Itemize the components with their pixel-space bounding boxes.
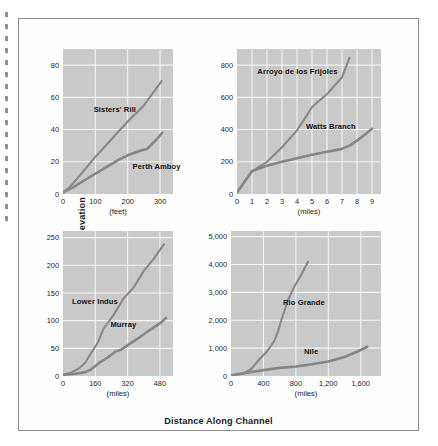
plot-area: Lower IndusMurray [63,231,173,376]
plot-area: Rio GrandeNile [231,231,381,376]
series-annotation-label: Lower Indus [72,297,118,306]
plot-area: Sisters' RillPerth Amboy [63,49,173,194]
figure-x-axis-label: Distance Along Channel [19,416,418,426]
x-axis-unit-label: (miles) [231,389,381,398]
y-tick-label: 20 [25,157,59,166]
series-line [63,244,164,375]
x-tick-label: 100 [78,197,112,206]
chart-panel-top-left: Sisters' RillPerth Amboy0204060800100200… [63,49,173,194]
x-tick-label: 1,200 [311,379,345,388]
y-tick-label: 200 [25,261,59,270]
x-tick-label: 0 [46,379,80,388]
scan-edge-artifact [5,12,8,227]
x-axis-unit-label: (feet) [63,207,173,216]
y-tick-label: 200 [199,157,233,166]
x-tick-label: 0 [46,197,80,206]
plot-area: Arroyo de los FrijolesWatts Branch [237,49,381,194]
y-tick-label: 100 [25,316,59,325]
y-tick-label: 5,000 [193,232,227,241]
x-axis-unit-label: (miles) [237,207,381,216]
series-line [63,81,162,192]
y-tick-label: 40 [25,125,59,134]
series-annotation-label: Nile [304,347,318,356]
x-tick-label: 160 [78,379,112,388]
chart-panel-top-right: Arroyo de los FrijolesWatts Branch020040… [237,49,381,194]
y-tick-label: 4,000 [193,260,227,269]
x-tick-label: 320 [111,379,145,388]
x-tick-label: 0 [214,379,248,388]
y-tick-label: 60 [25,93,59,102]
y-tick-label: 400 [199,125,233,134]
series-annotation-label: Murray [110,320,136,329]
y-tick-label: 80 [25,61,59,70]
x-tick-label: 1,600 [344,379,378,388]
y-tick-label: 3,000 [193,288,227,297]
series-line [231,347,367,376]
y-tick-label: 250 [25,233,59,242]
series-line [237,129,372,193]
y-tick-label: 600 [199,93,233,102]
series-line [231,262,308,376]
series-annotation-label: Rio Grande [283,298,325,307]
plot-canvas [63,49,173,194]
x-axis-unit-label: (miles) [63,389,173,398]
figure-frame: Elevation Above Mouth (feet) Distance Al… [18,18,419,431]
series-annotation-label: Watts Branch [306,122,356,131]
x-tick-label: 400 [246,379,280,388]
y-tick-label: 150 [25,289,59,298]
x-tick-label: 800 [279,379,313,388]
y-tick-label: 50 [25,344,59,353]
series-annotation-label: Perth Amboy [133,162,181,171]
series-annotation-label: Sisters' Rill [94,105,136,114]
chart-panel-bottom-right: Rio GrandeNile01,0002,0003,0004,0005,000… [231,231,381,376]
figure-body: Elevation Above Mouth (feet) Distance Al… [19,19,418,430]
series-annotation-label: Arroyo de los Frijoles [257,67,337,76]
y-tick-label: 2,000 [193,316,227,325]
x-tick-label: 480 [143,379,177,388]
x-tick-label: 9 [355,197,389,206]
y-tick-label: 1,000 [193,344,227,353]
y-tick-label: 800 [199,61,233,70]
chart-panel-bottom-left: Lower IndusMurray05010015020025001603204… [63,231,173,376]
x-tick-label: 200 [111,197,145,206]
x-tick-label: 300 [143,197,177,206]
